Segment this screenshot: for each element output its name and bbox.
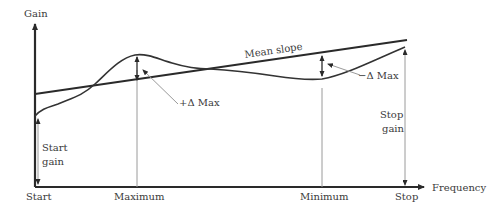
y-axis-label: Gain <box>24 8 48 19</box>
x-label-minimum: Minimum <box>300 191 349 202</box>
plus-delta-max-label: +Δ Max <box>179 97 220 108</box>
stop-gain-label-line1: Stop <box>380 109 403 120</box>
gain-frequency-diagram: Gain Frequency +Δ Max −Δ Max Mean slope … <box>0 0 503 213</box>
x-label-start: Start <box>26 191 52 202</box>
gain-curve <box>35 47 405 116</box>
x-label-stop: Stop <box>395 191 418 202</box>
x-label-maximum: Maximum <box>114 191 165 202</box>
mean-slope-line <box>35 40 407 94</box>
x-axis-label: Frequency <box>432 182 486 193</box>
minus-delta-max-label: −Δ Max <box>358 70 399 81</box>
stop-gain-label-line2: gain <box>382 123 405 134</box>
start-gain-label-line1: Start <box>42 142 68 153</box>
start-gain-label-line2: gain <box>42 156 65 167</box>
